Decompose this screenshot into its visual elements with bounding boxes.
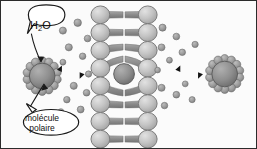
water-callout-leader bbox=[31, 34, 44, 63]
solvated-molecule-right bbox=[206, 55, 244, 94]
transiting-solute bbox=[114, 64, 135, 85]
polar-molecule-callout-bubble bbox=[23, 104, 78, 136]
equilibrium-arrows-right bbox=[175, 66, 203, 79]
diagram-canvas: H2O molécule polaire bbox=[0, 0, 257, 149]
diagram-svg bbox=[1, 1, 256, 148]
water-dots-left bbox=[58, 19, 92, 114]
water-dots-right bbox=[155, 24, 199, 109]
water-callout-bubble bbox=[27, 5, 64, 34]
